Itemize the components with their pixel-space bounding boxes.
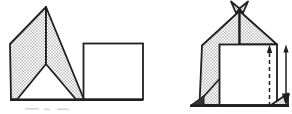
right-roof-flap — [240, 11, 278, 45]
double-vertical-arrow-icon — [282, 45, 290, 106]
diagram-canvas — [0, 0, 292, 114]
left-shaded-flap — [10, 7, 46, 100]
origami-diagram — [0, 0, 292, 114]
right-figure-square — [220, 45, 278, 106]
figure-unfolded-sheet — [10, 7, 143, 110]
left-figure-square — [84, 44, 144, 100]
right-shaded-flap — [46, 7, 84, 100]
dark-corner-flap — [190, 96, 204, 106]
figure-folded-house — [190, 2, 290, 106]
faint-caption-remnant — [25, 108, 69, 110]
